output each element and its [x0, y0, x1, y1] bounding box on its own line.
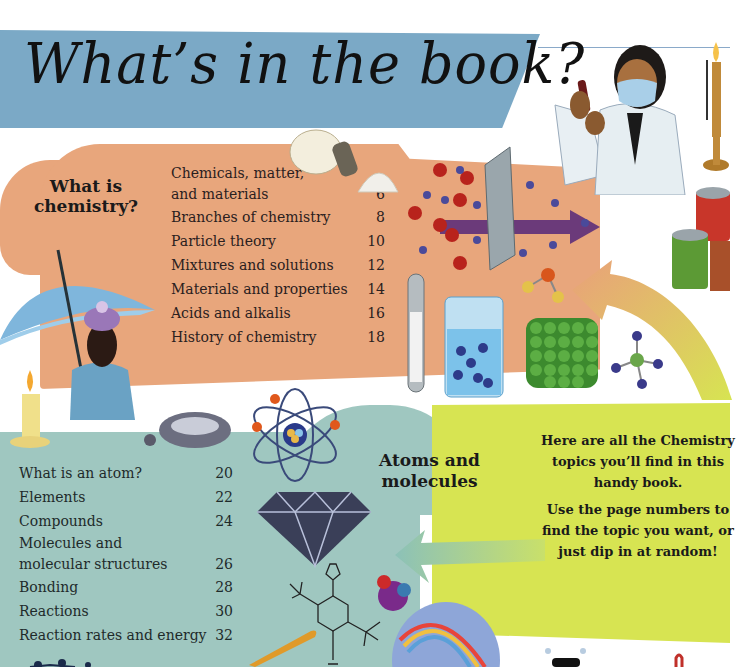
- section-heading-what-is-chemistry: What is chemistry?: [22, 176, 150, 216]
- toc-item-label: Branches of chemistry: [171, 205, 331, 229]
- toc-item[interactable]: Materials and properties14: [171, 277, 385, 301]
- toc-item[interactable]: Reaction rates and energy32: [19, 623, 233, 647]
- toc-item[interactable]: History of chemistry18: [171, 325, 385, 349]
- atom-model-icon: [245, 385, 345, 485]
- rainbow-globe-icon: [390, 600, 502, 667]
- toc-item-label: Molecules andmolecular structures: [19, 533, 167, 575]
- toc-item-page: 20: [211, 461, 233, 485]
- toc-item-page: 28: [211, 575, 233, 599]
- toc-item-label: History of chemistry: [171, 325, 316, 349]
- toc-item-page: 14: [363, 277, 385, 301]
- diamond-icon: [255, 490, 373, 568]
- toc-item-label: Materials and properties: [171, 277, 348, 301]
- toc-item-label: Compounds: [19, 509, 103, 533]
- intro-line-2: Use the page numbers to find the topic y…: [538, 499, 738, 562]
- toc-list-atoms: What is an atom?20 Elements22 Compounds2…: [19, 461, 233, 647]
- arrow-to-atoms-icon: [395, 525, 545, 585]
- toc-item-page: 8: [363, 205, 385, 229]
- toc-item[interactable]: Compounds24: [19, 509, 233, 533]
- toc-item-page: 26: [211, 554, 233, 575]
- toc-item[interactable]: Bonding28: [19, 575, 233, 599]
- wooden-splint-icon: [245, 625, 320, 667]
- test-tube-icon: [405, 272, 427, 400]
- toc-item-label: Reactions: [19, 599, 89, 623]
- toc-item-page: 22: [211, 485, 233, 509]
- toc-item-label: Particle theory: [171, 229, 276, 253]
- toc-item-label: Elements: [19, 485, 85, 509]
- candle-holder-icon: [702, 40, 730, 175]
- toc-item[interactable]: Mixtures and solutions12: [171, 253, 385, 277]
- molecule-methane-icon: [610, 330, 665, 390]
- candle-icon: [8, 368, 52, 450]
- toc-item-page: 30: [211, 599, 233, 623]
- toc-item[interactable]: Reactions30: [19, 599, 233, 623]
- toc-item-label: Reaction rates and energy: [19, 623, 207, 647]
- salt-shaker-icon: [288, 124, 408, 196]
- toc-item-page: 24: [211, 509, 233, 533]
- toc-item-page: 32: [211, 623, 233, 647]
- toc-item[interactable]: Acids and alkalis16: [171, 301, 385, 325]
- toc-item[interactable]: Molecules andmolecular structures 26: [19, 533, 233, 575]
- toc-item[interactable]: Branches of chemistry8: [171, 205, 385, 229]
- toc-item-label: Acids and alkalis: [171, 301, 291, 325]
- toc-item-page: 16: [363, 301, 385, 325]
- particle-diffusion-icon: [405, 145, 605, 280]
- atom-cube-icon: [522, 312, 602, 392]
- intro-text: Here are all the Chemistry topics you’ll…: [538, 430, 738, 568]
- red-hook-icon: [672, 652, 686, 667]
- page-title: What’s in the book?: [24, 30, 585, 96]
- toc-item-page: 12: [363, 253, 385, 277]
- toc-item[interactable]: What is an atom?20: [19, 461, 233, 485]
- toc-item[interactable]: Particle theory10: [171, 229, 385, 253]
- toc-item-label: Mixtures and solutions: [171, 253, 334, 277]
- beaker-icon: [443, 293, 505, 403]
- molecule-small-icon: [518, 265, 568, 305]
- toc-item-label: Bonding: [19, 575, 78, 599]
- toc-item[interactable]: Elements22: [19, 485, 233, 509]
- toc-item-label: Chemicals, matter,and materials: [171, 163, 304, 205]
- intro-line-1: Here are all the Chemistry topics you’ll…: [538, 430, 738, 493]
- bottom-left-molecule-icon: [20, 655, 110, 667]
- mercury-drops-icon: [140, 408, 232, 450]
- cans-icon: [670, 185, 730, 295]
- ethene-molecule-icon: [540, 648, 590, 667]
- toc-item-page: 10: [363, 229, 385, 253]
- toc-item-label: What is an atom?: [19, 461, 142, 485]
- section-heading-atoms-and-molecules: Atoms and molecules: [372, 450, 487, 492]
- toc-item-page: 18: [363, 325, 385, 349]
